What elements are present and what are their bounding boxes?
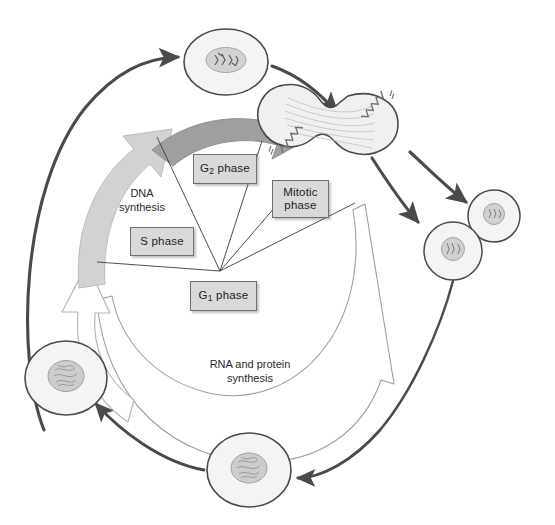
cell-left-g1 (25, 341, 107, 415)
arrow-dividing-to-daughter-lower (372, 158, 418, 222)
label-rna-protein-synthesis: RNA and protein synthesis (185, 357, 315, 386)
cell-cycle-diagram: G2 phase Mitotic phase S phase G1 phase … (0, 0, 555, 525)
cell-daughter-lower-right (424, 222, 482, 280)
phase-box-g2-label: G2 phase (200, 162, 250, 175)
nucleus (442, 238, 465, 261)
diagram-canvas (0, 0, 555, 525)
phase-box-mitotic-label-line2: phase (284, 199, 316, 212)
arrow-dividing-to-daughter-upper (410, 152, 466, 202)
phase-box-s-label: S phase (140, 235, 184, 248)
phase-box-g1-label: G1 phase (199, 289, 249, 302)
label-dna-synthesis: DNA synthesis (107, 186, 177, 215)
phase-box-s[interactable]: S phase (130, 227, 194, 256)
arrow-outer-right-down (380, 281, 453, 430)
cell-dividing-telophase (258, 84, 398, 154)
phase-box-mitotic[interactable]: Mitotic phase (272, 180, 329, 218)
nucleus (206, 48, 246, 73)
cell-top-prophase (184, 29, 268, 95)
phase-box-mitotic-label-line1: Mitotic (283, 186, 318, 199)
cell-bottom-g1 (207, 433, 291, 507)
phase-box-g2[interactable]: G2 phase (193, 154, 257, 184)
phase-box-g1[interactable]: G1 phase (190, 281, 257, 311)
